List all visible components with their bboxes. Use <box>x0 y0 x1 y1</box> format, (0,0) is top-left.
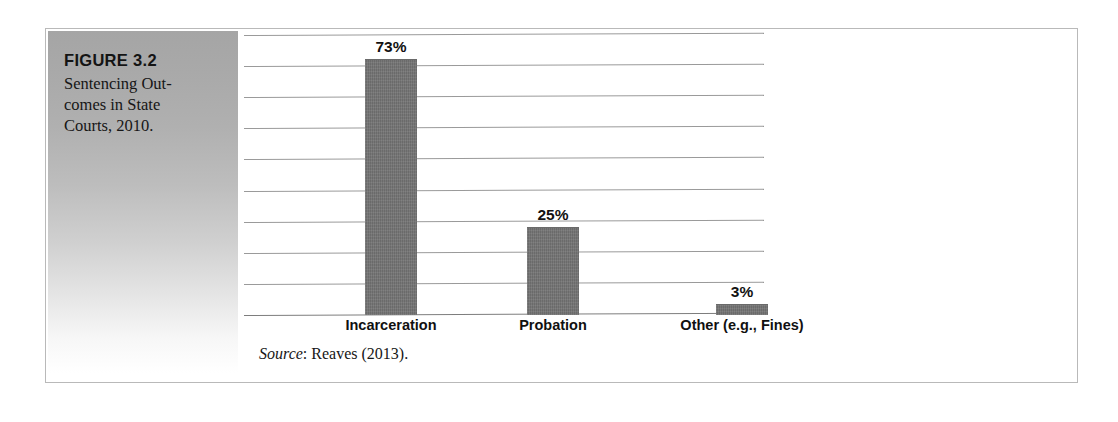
chart-bar <box>716 304 768 316</box>
source-label: Source <box>259 345 303 362</box>
chart-gridline <box>244 250 764 253</box>
figure-source-line: Source: Reaves (2013). <box>259 345 408 363</box>
chart-category-label: Probation <box>463 317 643 333</box>
chart-category-axis: IncarcerationProbationOther (e.g., Fines… <box>244 317 804 341</box>
chart-axis-baseline <box>244 313 764 317</box>
figure-caption-text: Sentencing Out­comes in State Courts, 20… <box>64 73 182 136</box>
chart-gridline <box>244 282 764 285</box>
chart-category-label: Incarceration <box>301 317 481 333</box>
source-citation: : Reaves (2013). <box>303 345 408 362</box>
chart-bar-value-label: 25% <box>508 206 598 224</box>
chart-plot-area <box>244 35 764 315</box>
chart-gridline <box>244 64 764 67</box>
caption-text-wrapper: FIGURE 3.2 Sentencing Out­comes in State… <box>64 51 216 136</box>
chart-bar <box>527 227 579 316</box>
figure-caption-band: FIGURE 3.2 Sentencing Out­comes in State… <box>48 31 238 373</box>
chart-bar-value-label: 3% <box>697 283 787 301</box>
chart-bar <box>365 59 417 316</box>
chart-bar-value-label: 73% <box>346 38 436 56</box>
figure-number-label: FIGURE 3.2 <box>64 51 216 70</box>
figure-frame: FIGURE 3.2 Sentencing Out­comes in State… <box>45 28 1078 383</box>
chart-gridline <box>244 126 764 129</box>
chart-gridline <box>244 219 764 222</box>
chart-gridline <box>244 188 764 191</box>
chart-gridline <box>244 157 764 160</box>
chart-category-label: Other (e.g., Fines) <box>652 317 832 333</box>
chart-gridline <box>244 95 764 98</box>
chart-gridline <box>244 33 764 36</box>
